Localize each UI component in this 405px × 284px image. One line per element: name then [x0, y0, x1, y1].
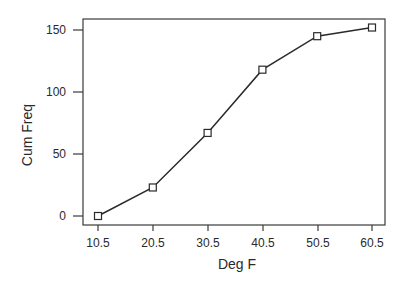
y-tick-label: 150 — [46, 23, 66, 37]
series-line — [98, 28, 372, 216]
chart: 0 50 100 150 10.5 20.5 30.5 40.5 50.5 60… — [0, 0, 405, 284]
x-tick-label: 50.5 — [306, 236, 330, 250]
y-axis-title: Cum Freq — [19, 104, 35, 166]
y-tick-label: 0 — [59, 209, 66, 223]
data-point-marker — [314, 33, 321, 40]
x-tick-label: 20.5 — [141, 236, 165, 250]
data-point-marker — [95, 213, 102, 220]
data-series — [95, 24, 376, 219]
data-point-marker — [204, 129, 211, 136]
plot-frame — [83, 19, 385, 225]
x-axis: 10.5 20.5 30.5 40.5 50.5 60.5 — [86, 225, 384, 250]
x-tick-label: 60.5 — [360, 236, 384, 250]
x-tick-label: 40.5 — [251, 236, 275, 250]
x-axis-title: Deg F — [218, 256, 256, 272]
data-point-marker — [259, 66, 266, 73]
x-tick-label: 10.5 — [86, 236, 110, 250]
x-tick-label: 30.5 — [196, 236, 220, 250]
data-point-marker — [369, 24, 376, 31]
data-point-marker — [149, 184, 156, 191]
y-tick-label: 50 — [53, 147, 67, 161]
y-axis: 0 50 100 150 — [46, 23, 83, 223]
y-tick-label: 100 — [46, 85, 66, 99]
